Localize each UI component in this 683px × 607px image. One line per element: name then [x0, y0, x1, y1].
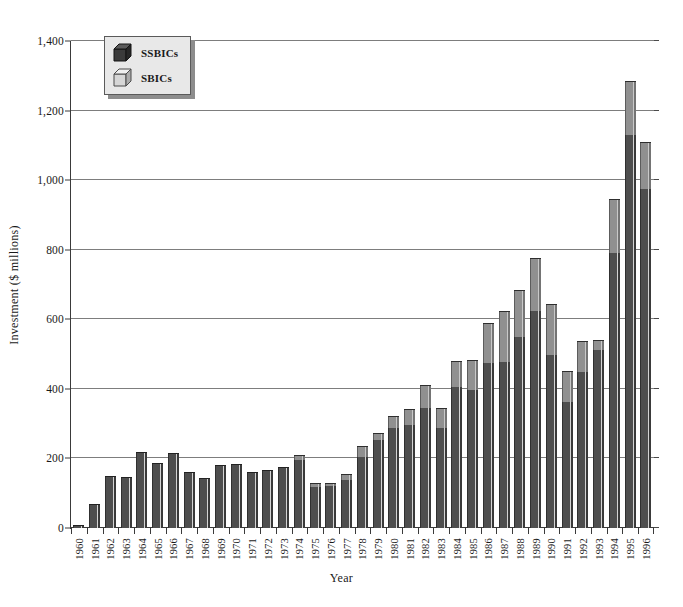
x-tick-mark-1977: [339, 528, 340, 534]
bar-stack-1969: [215, 465, 226, 528]
x-tick-mark-1968: [197, 528, 198, 534]
bar-segment-sbics-1982: [420, 385, 431, 408]
x-tick-mark-1962: [103, 528, 104, 534]
x-label-cell-1963: 1963: [118, 536, 134, 596]
bar-stack-1968: [199, 478, 210, 528]
bar-segment-ssbics-1984: [451, 387, 462, 528]
x-label-cell-1964: 1964: [134, 536, 150, 596]
right-tick-800: [654, 249, 659, 250]
legend-item-ssbics: SSBICs: [113, 42, 178, 64]
x-tick-label-1979: 1979: [373, 538, 384, 560]
bar-stack-1975: [310, 483, 321, 528]
bar-column-1971: [244, 41, 260, 528]
bar-stack-1963: [121, 477, 132, 528]
x-tick-mark-1971: [244, 528, 245, 534]
y-axis-tick-labels: 02004006008001,0001,2001,400: [0, 0, 64, 607]
x-label-cell-1976: 1976: [323, 536, 339, 596]
x-tick-label-1990: 1990: [546, 538, 557, 560]
x-label-cell-1981: 1981: [402, 536, 418, 596]
y-tick-label-800: 800: [46, 244, 64, 256]
x-tick-mark-1961: [87, 528, 88, 534]
x-tick-label-1985: 1985: [467, 538, 478, 560]
bar-column-1974: [292, 41, 308, 528]
x-axis-tick-labels: 1960196119621963196419651966196719681969…: [71, 536, 654, 596]
x-tick-mark-1975: [307, 528, 308, 534]
right-tick-600: [654, 318, 659, 319]
x-tick-label-1989: 1989: [530, 538, 541, 560]
y-tick-mark-1200: [65, 110, 71, 111]
x-tick-mark-1963: [118, 528, 119, 534]
bar-column-1960: [71, 41, 87, 528]
x-axis-title: Year: [0, 571, 683, 586]
bar-stack-1982: [420, 385, 431, 528]
x-tick-label-1976: 1976: [325, 538, 336, 560]
y-tick-label-1000: 1,000: [37, 174, 64, 186]
bar-column-1988: [512, 41, 528, 528]
bar-segment-ssbics-1962: [105, 476, 116, 528]
bar-segment-ssbics-1973: [278, 467, 289, 528]
bar-segment-ssbics-1982: [420, 408, 431, 528]
x-label-cell-1985: 1985: [465, 536, 481, 596]
bar-segment-ssbics-1985: [467, 390, 478, 528]
x-tick-mark-1972: [260, 528, 261, 534]
x-tick-label-1995: 1995: [625, 538, 636, 560]
x-tick-mark-1978: [355, 528, 356, 534]
cube-dark-icon: [113, 43, 135, 63]
x-tick-mark-1983: [433, 528, 434, 534]
bar-segment-sbics-1985: [467, 360, 478, 390]
bar-stack-1993: [593, 340, 604, 528]
y-tick-mark-1000: [65, 180, 71, 181]
right-tick-200: [654, 457, 659, 458]
bar-stack-1988: [514, 290, 525, 528]
y-tick-label-600: 600: [46, 313, 64, 325]
x-label-cell-1972: 1972: [260, 536, 276, 596]
x-tick-label-1973: 1973: [278, 538, 289, 560]
x-tick-mark-1974: [292, 528, 293, 534]
x-label-cell-1996: 1996: [638, 536, 654, 596]
bar-segment-sbics-1989: [530, 258, 541, 310]
bar-segment-sbics-1988: [514, 290, 525, 338]
x-tick-label-1964: 1964: [136, 538, 147, 560]
x-tick-mark-1992: [575, 528, 576, 534]
bar-segment-ssbics-1964: [136, 452, 147, 528]
x-tick-mark-1995: [622, 528, 623, 534]
x-label-cell-1995: 1995: [622, 536, 638, 596]
x-tick-mark-1981: [402, 528, 403, 534]
x-tick-label-1963: 1963: [121, 538, 132, 560]
bar-stack-1962: [105, 476, 116, 528]
bar-stack-1973: [278, 467, 289, 528]
x-label-cell-1961: 1961: [87, 536, 103, 596]
x-label-cell-1994: 1994: [607, 536, 623, 596]
x-tick-label-1975: 1975: [310, 538, 321, 560]
y-tick-mark-800: [65, 249, 71, 250]
bar-column-1975: [307, 41, 323, 528]
bar-segment-ssbics-1978: [357, 457, 368, 528]
bar-column-1968: [197, 41, 213, 528]
bar-stack-1965: [152, 463, 163, 528]
bar-column-1984: [449, 41, 465, 528]
bar-column-1962: [103, 41, 119, 528]
bar-segment-ssbics-1988: [514, 337, 525, 528]
x-tick-mark-1967: [181, 528, 182, 534]
right-tick-1000: [654, 179, 659, 180]
x-label-cell-1962: 1962: [103, 536, 119, 596]
x-tick-label-1960: 1960: [73, 538, 84, 560]
x-tick-label-1970: 1970: [231, 538, 242, 560]
bar-stack-1964: [136, 452, 147, 528]
x-tick-label-1984: 1984: [451, 538, 462, 560]
x-tick-label-1965: 1965: [152, 538, 163, 560]
bar-segment-sbics-1991: [562, 371, 573, 402]
bar-segment-sbics-1995: [625, 81, 636, 135]
x-label-cell-1975: 1975: [307, 536, 323, 596]
x-tick-label-1992: 1992: [577, 538, 588, 560]
legend: SSBICs SBICs: [104, 36, 191, 95]
bar-segment-ssbics-1974: [294, 460, 305, 528]
y-tick-mark-400: [65, 388, 71, 389]
x-label-cell-1980: 1980: [386, 536, 402, 596]
bar-segment-ssbics-1995: [625, 135, 636, 528]
bar-stack-1987: [499, 311, 510, 528]
bar-stack-1985: [467, 360, 478, 528]
x-label-cell-1968: 1968: [197, 536, 213, 596]
x-axis: 1960196119621963196419651966196719681969…: [71, 528, 654, 604]
bar-segment-ssbics-1966: [168, 453, 179, 528]
